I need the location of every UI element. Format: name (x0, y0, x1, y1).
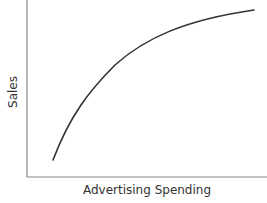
y-axis-label-text: Sales (6, 76, 20, 108)
x-axis-label: Advertising Spending (27, 183, 267, 197)
sales-vs-advertising-chart: Sales Advertising Spending (0, 0, 267, 203)
chart-canvas (0, 0, 267, 203)
y-axis-label: Sales (2, 72, 24, 112)
sales-curve (53, 10, 254, 160)
